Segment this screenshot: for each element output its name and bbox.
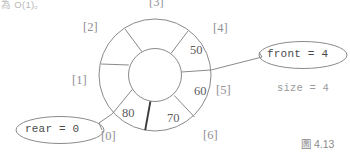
ring-divider-2-3 xyxy=(125,29,142,52)
ring-divider-3-4 xyxy=(171,31,188,54)
ring-slot-value-0: 80 xyxy=(122,106,135,121)
ring-divider-1-2 xyxy=(101,64,129,65)
ring-index-label-0: [0] xyxy=(101,129,116,144)
figure-canvas: 為 O(1)。 xyxy=(0,0,350,154)
ring-index-label-2: [2] xyxy=(83,20,98,35)
ring-slot-value-4: 50 xyxy=(190,43,203,58)
ring-index-label-6: [6] xyxy=(203,128,218,143)
figure-caption: 圖 4.13 xyxy=(301,136,334,151)
ring-slot-value-6: 70 xyxy=(167,111,180,126)
ring-index-label-1: [1] xyxy=(72,73,87,88)
rear-callout-leader xyxy=(99,114,112,130)
ring-slot-value-5: 60 xyxy=(194,84,207,99)
front-callout-label: front = 4 xyxy=(267,48,328,60)
front-callout-leader xyxy=(211,52,262,70)
ring-index-label-5: [5] xyxy=(216,83,231,98)
ring-divider-4-5 xyxy=(181,70,210,72)
size-label: size = 4 xyxy=(277,82,329,94)
ring-index-label-4: [4] xyxy=(213,21,228,36)
ring-outer-circle xyxy=(99,19,211,131)
ring-divider-rear xyxy=(145,101,150,130)
ring-index-label-3: [3] xyxy=(149,0,164,10)
rear-callout-label: rear = 0 xyxy=(25,123,79,135)
ring-inner-circle xyxy=(129,49,182,102)
